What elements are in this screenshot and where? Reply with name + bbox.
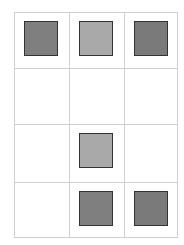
grid-divider	[69, 13, 70, 237]
square-dark	[134, 21, 168, 56]
grid-divider	[15, 124, 177, 125]
grid-divider	[15, 68, 177, 69]
grid-divider	[15, 182, 177, 183]
square-light	[79, 133, 113, 168]
square-light	[79, 21, 113, 56]
square-dark	[134, 191, 168, 226]
grid-divider	[124, 13, 125, 237]
square-dark	[24, 21, 58, 56]
square-dark	[79, 191, 113, 226]
